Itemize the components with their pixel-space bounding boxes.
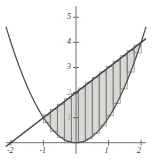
x-tick-label: 1 [105,147,109,155]
y-tick-label: 1 [67,114,71,122]
y-tick-label: 2 [67,89,71,97]
y-tick-label: 4 [67,38,71,46]
x-tick-label: 2 [137,147,141,155]
area-between-curves-plot [0,0,152,160]
y-tick-label: 5 [67,13,71,21]
y-tick-label: 3 [67,63,71,71]
x-tick-label: -1 [39,147,46,155]
x-tick-label: -2 [7,147,14,155]
figure-container: -2-11212345 [0,0,152,160]
